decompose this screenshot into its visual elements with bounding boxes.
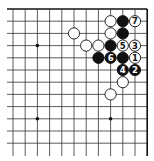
move-number: 3 xyxy=(132,41,138,51)
white-stone-move-7: 7 xyxy=(129,16,140,27)
white-stone-move-5: 5 xyxy=(117,40,128,51)
star-point xyxy=(36,117,40,121)
white-stone-move-3: 3 xyxy=(129,40,140,51)
white-stone-move-1: 1 xyxy=(129,52,140,63)
move-number: 7 xyxy=(132,16,138,26)
star-point xyxy=(36,44,40,48)
black-stone xyxy=(93,52,104,63)
white-stone xyxy=(105,16,116,27)
white-stone xyxy=(117,77,128,88)
go-board-diagram: 7536142 xyxy=(0,0,154,161)
black-stone xyxy=(117,28,128,39)
white-stone xyxy=(81,40,92,51)
black-stone xyxy=(105,40,116,51)
white-stone xyxy=(105,28,116,39)
white-stone xyxy=(93,40,104,51)
move-number: 4 xyxy=(120,65,126,75)
white-stone xyxy=(105,89,116,100)
white-stone xyxy=(68,28,79,39)
move-number: 6 xyxy=(108,53,114,63)
black-stone-move-2: 2 xyxy=(129,64,140,75)
black-stone-move-6: 6 xyxy=(105,52,116,63)
black-stone-move-4: 4 xyxy=(117,64,128,75)
black-stone xyxy=(117,16,128,27)
move-number: 5 xyxy=(120,41,126,51)
move-number: 1 xyxy=(132,53,138,63)
black-stone xyxy=(117,52,128,63)
star-point xyxy=(109,117,113,121)
move-number: 2 xyxy=(132,65,138,75)
